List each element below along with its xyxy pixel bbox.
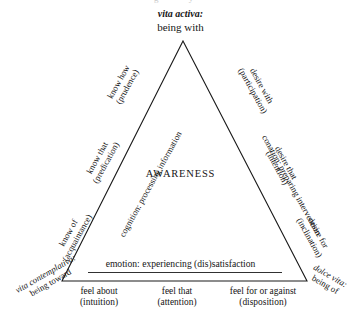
awareness-triangle-figure: g y vita activa: being with AWARENESS em… [0, 0, 361, 331]
bottom-label-feel-that: feel that (attention) [146, 286, 208, 307]
bottom-label-feel-about-line2: (intuition) [62, 297, 136, 308]
center-label-awareness: AWARENESS [0, 168, 361, 180]
bottom-label-feel-that-line2: (attention) [146, 297, 208, 308]
bottom-label-feel-for-or-against: feel for or against (disposition) [213, 286, 313, 307]
bottom-label-feel-for-or-against-line2: (disposition) [213, 297, 313, 308]
apex-label-line2: being with [0, 21, 361, 35]
bottom-label-feel-about-line1: feel about [62, 286, 136, 297]
bottom-label-feel-about: feel about (intuition) [62, 286, 136, 307]
bottom-label-feel-for-or-against-line1: feel for or against [213, 286, 313, 297]
apex-label: vita activa: being with [0, 8, 361, 34]
apex-label-line1: vita activa: [0, 8, 361, 21]
bottom-label-feel-that-line1: feel that [146, 286, 208, 297]
